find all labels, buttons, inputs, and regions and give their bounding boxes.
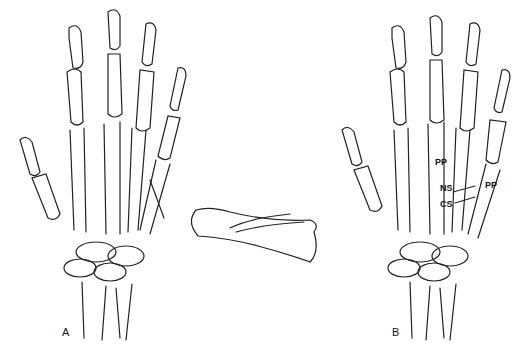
annotation-pp-left: PP — [435, 157, 447, 167]
hand-a — [20, 10, 186, 340]
hand-illustration — [0, 0, 530, 344]
panel-label-a: A — [62, 326, 69, 338]
metacarpal-detail — [191, 208, 316, 262]
hand-b — [342, 16, 510, 340]
panel-label-b: B — [392, 326, 399, 338]
annotation-cs: CS — [440, 199, 453, 209]
annotation-ns: NS — [440, 183, 453, 193]
annotation-pp-right: PP — [485, 180, 497, 190]
